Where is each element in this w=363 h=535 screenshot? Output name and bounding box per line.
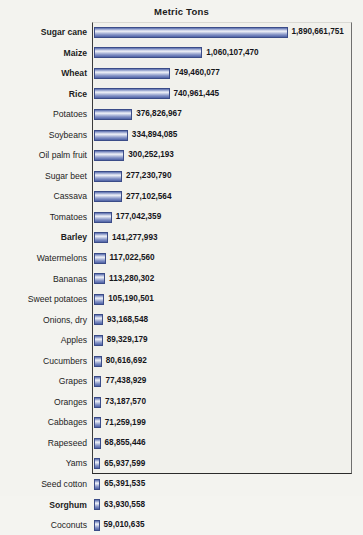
bar-category-label: Apples [0, 336, 87, 345]
bar-category-label: Cassava [0, 192, 87, 201]
bar-category-label: Yams [0, 459, 87, 468]
bar-category-label: Onions, dry [0, 316, 87, 325]
bar-row: Potatoes376,826,967 [0, 104, 363, 125]
bar-and-value: 65,937,599 [94, 453, 146, 474]
bar-value-label: 77,438,929 [105, 377, 146, 385]
bar-and-value: 300,252,193 [94, 145, 174, 166]
bar-row: Barley141,277,993 [0, 227, 363, 248]
chart-title: Metric Tons [0, 6, 363, 17]
bar-row: Rice740,961,445 [0, 84, 363, 105]
bar-row: Yams65,937,599 [0, 453, 363, 474]
bar-category-label: Tomatoes [0, 213, 87, 222]
bar-category-label: Oil palm fruit [0, 151, 87, 160]
bar [94, 458, 101, 469]
bar [94, 68, 171, 79]
bar-and-value: 89,329,179 [94, 330, 148, 351]
bar-category-label: Sorghum [0, 501, 87, 510]
bar-value-label: 177,042,359 [116, 213, 162, 221]
bar-and-value: 105,190,501 [94, 289, 154, 310]
bar-rows-container: Sugar cane1,890,661,751Maize1,060,107,47… [0, 22, 363, 474]
bar-value-label: 80,616,692 [106, 357, 147, 365]
bar [94, 520, 100, 531]
bar-category-label: Seed cotton [0, 480, 87, 489]
bar-row: Sweet potatoes105,190,501 [0, 289, 363, 310]
bar [94, 47, 203, 58]
bar-category-label: Wheat [0, 69, 87, 78]
bar-value-label: 117,022,560 [110, 254, 155, 262]
bar-and-value: 65,391,535 [94, 474, 146, 495]
bar-and-value: 177,042,359 [94, 207, 162, 228]
bar-category-label: Barley [0, 233, 87, 242]
bar-value-label: 65,937,599 [104, 460, 145, 468]
bar-row: Sugar cane1,890,661,751 [0, 22, 363, 43]
bar-category-label: Cucumbers [0, 357, 87, 366]
bar-value-label: 89,329,179 [107, 336, 148, 344]
bar-category-label: Rapeseed [0, 439, 87, 448]
bar-value-label: 73,187,570 [105, 398, 146, 406]
bar-row: Oil palm fruit300,252,193 [0, 145, 363, 166]
bar-row: Onions, dry93,168,548 [0, 310, 363, 331]
bar-and-value: 71,259,199 [94, 412, 146, 433]
bar-value-label: 93,168,548 [107, 316, 148, 324]
bar [94, 356, 102, 367]
bar-row: Bananas113,280,302 [0, 269, 363, 290]
bar [94, 376, 102, 387]
bar-value-label: 300,252,193 [128, 151, 174, 159]
bar [94, 499, 101, 510]
bar-category-label: Coconuts [0, 521, 87, 530]
bar-category-label: Grapes [0, 377, 87, 386]
bar-row: Wheat749,460,077 [0, 63, 363, 84]
bar [94, 438, 101, 449]
bar-and-value: 277,230,790 [94, 166, 172, 187]
bar-row: Seed cotton65,391,535 [0, 474, 363, 495]
bar [94, 294, 105, 305]
bar [94, 479, 101, 490]
bar-and-value: 740,961,445 [94, 84, 220, 105]
bar-and-value: 117,022,560 [94, 248, 155, 269]
bar [94, 397, 102, 408]
bar [94, 273, 106, 284]
bar-row: Apples89,329,179 [0, 330, 363, 351]
bar-and-value: 334,894,085 [94, 125, 178, 146]
bar-value-label: 1,890,661,751 [292, 28, 344, 36]
bar-value-label: 71,259,199 [105, 419, 146, 427]
bar-value-label: 59,010,635 [104, 521, 145, 529]
bar-value-label: 68,855,446 [105, 439, 146, 447]
bar-row: Cucumbers80,616,692 [0, 351, 363, 372]
bar [94, 314, 104, 325]
bar-and-value: 141,277,993 [94, 227, 158, 248]
bar-category-label: Maize [0, 49, 87, 58]
bar-category-label: Bananas [0, 275, 87, 284]
bar-and-value: 1,890,661,751 [94, 22, 344, 43]
bar-value-label: 141,277,993 [112, 234, 158, 242]
bar [94, 171, 122, 182]
bar-and-value: 93,168,548 [94, 310, 149, 331]
bar-row: Oranges73,187,570 [0, 392, 363, 413]
bar-row: Coconuts59,010,635 [0, 515, 363, 535]
bar-and-value: 68,855,446 [94, 433, 146, 454]
bar-row: Rapeseed68,855,446 [0, 433, 363, 454]
bar-value-label: 749,460,077 [174, 69, 220, 77]
bar-category-label: Watermelons [0, 254, 87, 263]
bar-category-label: Sugar cane [0, 28, 87, 37]
bar [94, 232, 109, 243]
bar-category-label: Potatoes [0, 110, 87, 119]
bar-row: Grapes77,438,929 [0, 371, 363, 392]
bar [94, 130, 128, 141]
bar-value-label: 105,190,501 [108, 295, 154, 303]
bar-category-label: Soybeans [0, 131, 87, 140]
bar-and-value: 77,438,929 [94, 371, 147, 392]
bar-row: Tomatoes177,042,359 [0, 207, 363, 228]
bar-and-value: 113,280,302 [94, 269, 155, 290]
bar-value-label: 277,102,564 [126, 193, 172, 201]
bar-and-value: 1,060,107,470 [94, 43, 259, 64]
bar [94, 88, 170, 99]
bar-and-value: 59,010,635 [94, 515, 145, 535]
bar-category-label: Sweet potatoes [0, 295, 87, 304]
bar [94, 253, 106, 264]
bar-category-label: Cabbages [0, 418, 87, 427]
bar-value-label: 1,060,107,470 [206, 49, 258, 57]
bar [94, 150, 125, 161]
bar-row: Watermelons117,022,560 [0, 248, 363, 269]
